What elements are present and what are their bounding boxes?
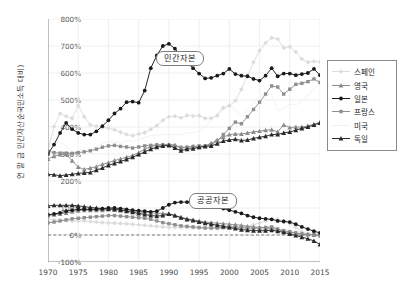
- series-point: [112, 127, 117, 132]
- legend-item-3[interactable]: 일본: [331, 92, 393, 105]
- series-point: [52, 143, 56, 147]
- series-point: [64, 218, 67, 221]
- series-point: [227, 67, 231, 71]
- series-point: [113, 214, 116, 217]
- series-point: [94, 220, 99, 225]
- series-point: [100, 220, 105, 225]
- series-point: [70, 208, 74, 212]
- chart-annotation: 공공자본: [189, 193, 237, 208]
- series-point: [70, 116, 75, 121]
- legend-item-5[interactable]: 미국: [331, 119, 393, 132]
- series-point: [155, 209, 159, 213]
- series-point: [101, 207, 105, 211]
- legend-marker-icon: [331, 66, 351, 77]
- series-point: [251, 60, 256, 65]
- series-point: [70, 152, 73, 155]
- series-point: [300, 72, 304, 76]
- series-point: [125, 215, 128, 218]
- series-point: [125, 100, 129, 104]
- series-point: [179, 224, 182, 227]
- series-point: [107, 118, 111, 122]
- series-point: [161, 221, 164, 224]
- series-point: [58, 131, 62, 135]
- legend-marker-icon: [331, 106, 351, 117]
- x-tick-label: 2005: [243, 268, 277, 277]
- series-point: [167, 114, 172, 119]
- series-line-private: [48, 122, 320, 169]
- legend-item-label: 프랑스: [354, 106, 375, 117]
- series-point: [82, 207, 86, 211]
- series-point: [130, 133, 135, 138]
- legend-marker-icon: [331, 93, 351, 104]
- series-point: [258, 216, 262, 220]
- legend-item-2[interactable]: 영국: [331, 78, 393, 91]
- series-point: [119, 207, 123, 211]
- series-point: [101, 146, 104, 149]
- series-point: [113, 144, 116, 147]
- series-point: [137, 101, 141, 105]
- series-point: [52, 212, 56, 216]
- series-point: [161, 44, 165, 48]
- series-point: [131, 100, 135, 104]
- series-point: [282, 72, 286, 76]
- series-point: [143, 209, 147, 213]
- x-tick-label: 2010: [273, 268, 307, 277]
- series-point: [88, 219, 93, 224]
- series-point: [88, 207, 92, 211]
- legend-item-label: 스페인: [354, 66, 375, 77]
- series-point: [149, 218, 152, 221]
- series-point: [107, 144, 110, 147]
- legend-marker-icon: [331, 80, 351, 91]
- series-point: [136, 222, 141, 227]
- series-point: [191, 114, 196, 119]
- x-tick-label: 2015: [303, 268, 337, 277]
- series-point: [318, 60, 320, 65]
- series-point: [203, 226, 206, 229]
- series-point: [77, 151, 80, 154]
- legend-marker-icon: [331, 120, 351, 131]
- x-tick-label: 1975: [61, 268, 95, 277]
- x-tick-label: 1990: [152, 268, 186, 277]
- series-point: [240, 74, 244, 78]
- series-point: [137, 216, 140, 219]
- series-point: [76, 131, 80, 135]
- series-point: [173, 201, 177, 205]
- series-point: [258, 100, 261, 103]
- series-point: [107, 206, 111, 210]
- series-point: [124, 132, 129, 137]
- series-point: [143, 217, 146, 220]
- legend-item-4[interactable]: 프랑스: [331, 105, 393, 118]
- series-point: [312, 67, 316, 71]
- series-point: [191, 225, 194, 228]
- series-point: [58, 219, 61, 222]
- series-point: [282, 92, 285, 95]
- series-point: [155, 224, 160, 229]
- series-point: [252, 215, 256, 219]
- legend-marker-icon: [331, 133, 351, 144]
- legend-item-1[interactable]: 스페인: [331, 65, 393, 78]
- series-point: [276, 219, 280, 223]
- series-point: [252, 77, 256, 81]
- series-point: [233, 210, 237, 214]
- series-point: [179, 200, 183, 204]
- series-point: [173, 223, 176, 226]
- series-point: [131, 215, 134, 218]
- series-point: [101, 124, 105, 128]
- series-point: [119, 145, 122, 148]
- series-point: [197, 113, 202, 118]
- series-point: [118, 221, 123, 226]
- series-line-private: [48, 84, 320, 153]
- series-point: [149, 66, 153, 70]
- series-point: [270, 84, 273, 87]
- series-point: [136, 132, 141, 137]
- series-point: [125, 207, 129, 211]
- series-point: [88, 133, 92, 137]
- series-point: [294, 222, 298, 226]
- series-point: [107, 214, 110, 217]
- series-point: [58, 211, 62, 215]
- series-point: [149, 210, 153, 214]
- series-point: [155, 219, 158, 222]
- legend-item-6[interactable]: 독일: [331, 132, 393, 145]
- series-point: [167, 222, 170, 225]
- series-point: [89, 149, 92, 152]
